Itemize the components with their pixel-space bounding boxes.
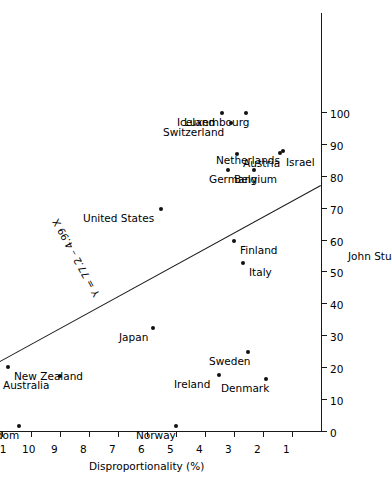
data-point-label: Belgium (234, 174, 277, 185)
x-tick-label: 2 (254, 444, 261, 455)
y-tick-label: 30 (330, 332, 343, 343)
y-tick-label: 20 (330, 364, 343, 375)
x-tick-mark (60, 432, 61, 437)
y-tick-label: 0 (330, 428, 337, 439)
data-point (6, 365, 10, 369)
data-point (151, 326, 155, 330)
data-point-label: Sweden (209, 356, 251, 367)
x-tick-mark (234, 432, 235, 437)
y-tick-mark (322, 303, 327, 304)
x-tick-mark (205, 432, 206, 437)
y-tick-label: 90 (330, 141, 343, 152)
x-tick-mark (292, 432, 293, 437)
data-point (229, 121, 233, 125)
scatter-plot: 1234567891011121314 01020304050607080901… (0, 0, 340, 432)
data-point (232, 239, 236, 243)
data-point-label: Finland (240, 245, 278, 256)
y-axis-title: John Stuart Mill criterion (%) (348, 251, 392, 263)
data-point-label: Netherlands (216, 155, 280, 166)
y-tick-label: 50 (330, 269, 343, 280)
x-tick-mark (31, 432, 32, 437)
x-tick-mark (118, 432, 119, 437)
data-point (252, 168, 256, 172)
chart-rotation-wrapper: 1234567891011121314 01020304050607080901… (0, 0, 340, 432)
y-tick-mark (322, 399, 327, 400)
data-point-label: United States (83, 213, 154, 224)
data-point (159, 207, 163, 211)
x-tick-label: 1 (283, 444, 290, 455)
y-tick-mark (322, 367, 327, 368)
x-tick-label: 11 (0, 444, 6, 455)
y-tick-mark (322, 335, 327, 336)
data-point (226, 168, 230, 172)
y-tick-mark (322, 176, 327, 177)
y-axis-line (321, 13, 322, 432)
x-tick-label: 6 (138, 444, 145, 455)
data-point (217, 373, 221, 377)
x-tick-label: 10 (22, 444, 35, 455)
x-tick-label: 5 (167, 444, 174, 455)
data-point-label: Denmark (221, 383, 269, 394)
y-tick-mark (322, 240, 327, 241)
data-point (278, 151, 282, 155)
data-point (241, 261, 245, 265)
x-tick-label: 4 (196, 444, 203, 455)
data-point (244, 111, 248, 115)
y-tick-mark (322, 112, 327, 113)
data-point-label: Ireland (174, 379, 210, 390)
y-tick-mark (322, 431, 327, 432)
data-point (246, 350, 250, 354)
data-point (264, 377, 268, 381)
regression-equation-label: Y = 77.2 – 4.99 X (51, 217, 101, 298)
data-point-label: Italy (249, 267, 272, 278)
data-point-label: United Kingdom (0, 430, 19, 441)
data-point-label: Israel (286, 157, 315, 168)
x-tick-mark (263, 432, 264, 437)
y-tick-label: 60 (330, 237, 343, 248)
data-point (174, 424, 178, 428)
y-tick-label: 40 (330, 300, 343, 311)
y-tick-label: 10 (330, 396, 343, 407)
y-tick-mark (322, 272, 327, 273)
data-point (220, 111, 224, 115)
data-point-label: Japan (119, 332, 148, 343)
data-point (17, 424, 21, 428)
x-axis-title: Disproportionality (%) (89, 460, 204, 472)
data-point-label: Switzerland (163, 127, 224, 138)
y-tick-label: 70 (330, 205, 343, 216)
x-tick-label: 9 (51, 444, 58, 455)
y-tick-mark (322, 208, 327, 209)
y-tick-label: 80 (330, 173, 343, 184)
y-tick-mark (322, 144, 327, 145)
x-tick-mark (89, 432, 90, 437)
x-tick-mark (176, 432, 177, 437)
y-tick-label: 100 (330, 109, 350, 120)
x-tick-label: 3 (225, 444, 232, 455)
x-tick-label: 7 (109, 444, 116, 455)
x-tick-label: 8 (80, 444, 87, 455)
data-point-label: New Zealand (14, 371, 83, 382)
data-point-label: Norway (136, 430, 176, 441)
